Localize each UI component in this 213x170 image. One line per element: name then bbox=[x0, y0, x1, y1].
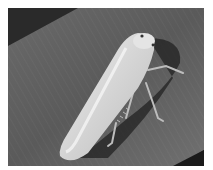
insect-head bbox=[133, 33, 155, 49]
insect-photo bbox=[8, 8, 204, 166]
insect-eye bbox=[140, 34, 143, 37]
leafhopper-illustration bbox=[8, 8, 204, 166]
